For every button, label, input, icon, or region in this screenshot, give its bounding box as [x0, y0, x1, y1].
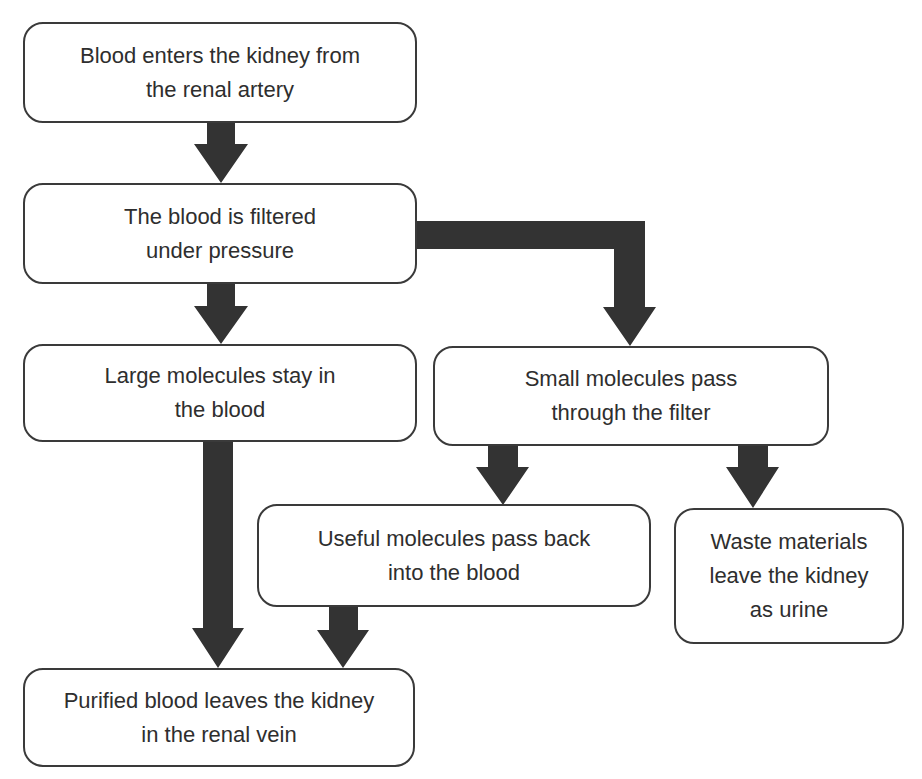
- arrow-n4-to-n6: [726, 444, 779, 508]
- node-blood-filtered: The blood is filtered under pressure: [23, 183, 417, 284]
- arrow-n1-to-n2: [194, 121, 248, 183]
- arrow-n5-to-n7: [317, 605, 369, 668]
- node-waste-materials: Waste materials leave the kidney as urin…: [674, 508, 904, 644]
- flowchart-canvas: Blood enters the kidney from the renal a…: [0, 0, 922, 779]
- node-purified-blood: Purified blood leaves the kidney in the …: [23, 668, 415, 767]
- node-large-molecules: Large molecules stay in the blood: [23, 344, 417, 442]
- node-small-molecules: Small molecules pass through the filter: [433, 346, 829, 446]
- arrow-n3-to-n7: [192, 440, 244, 668]
- arrow-n4-to-n5: [476, 444, 529, 505]
- node-useful-molecules: Useful molecules pass back into the bloo…: [257, 504, 651, 607]
- arrow-n2-to-n3: [194, 282, 248, 344]
- node-blood-enters-kidney: Blood enters the kidney from the renal a…: [23, 22, 417, 123]
- arrow-n2-to-n4: [415, 221, 656, 346]
